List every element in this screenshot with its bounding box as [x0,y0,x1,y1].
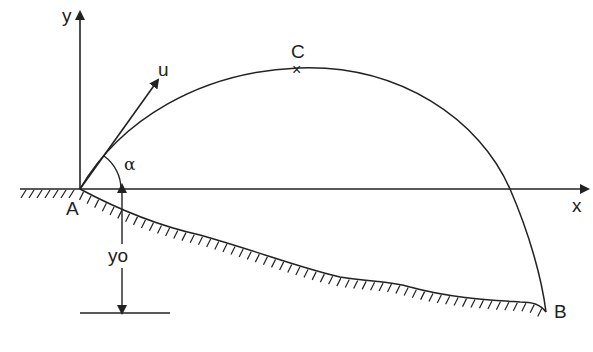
projectile-diagram: y x u α × C A B yo [0,0,593,352]
velocity-arrow [80,80,158,189]
slope-ground [80,189,546,312]
launch-point-label: A [66,198,79,219]
landing-point-label: B [554,301,567,322]
height-label: yo [108,245,128,266]
velocity-label: u [158,59,169,80]
trajectory-curve [80,68,546,312]
apex-marker: × [292,61,301,78]
apex-label: C [291,41,305,62]
left-ground-hatching [21,190,74,198]
angle-arc [104,156,121,189]
y-axis-label: y [62,5,72,26]
angle-label: α [124,154,136,174]
x-axis-label: x [572,195,582,216]
